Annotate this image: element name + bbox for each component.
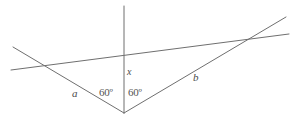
variable-label-x: x <box>127 67 131 77</box>
figure-canvas <box>0 0 296 119</box>
figure-background <box>0 0 296 119</box>
segment-label-a: a <box>72 88 78 99</box>
angle-label-right: 60º <box>128 87 142 98</box>
angle-label-left: 60º <box>99 87 113 98</box>
geometry-figure: a b x 60º 60º <box>0 0 296 119</box>
segment-label-b: b <box>193 72 199 83</box>
